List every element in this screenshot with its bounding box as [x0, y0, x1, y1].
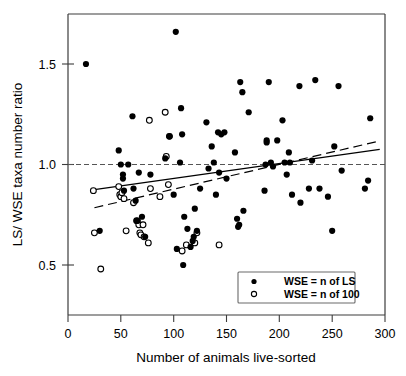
data-point — [236, 222, 242, 228]
data-point — [240, 208, 246, 214]
data-point — [216, 242, 222, 248]
data-point — [216, 169, 222, 175]
data-point — [162, 109, 168, 115]
data-point — [148, 186, 154, 192]
x-tick-label-100: 100 — [163, 327, 184, 341]
data-point — [142, 234, 148, 240]
scatter-plot-svg: 1.5 1.0 0.5 0 50 100 150 200 250 300 Num… — [0, 0, 406, 376]
y-tick-label-0.5: 0.5 — [39, 259, 56, 273]
x-tick-label-0: 0 — [65, 327, 72, 341]
data-point — [125, 161, 131, 167]
data-point — [116, 184, 122, 190]
data-point — [362, 186, 368, 192]
data-point — [287, 159, 293, 165]
data-point — [92, 230, 98, 236]
data-point — [145, 240, 151, 246]
data-point — [120, 175, 126, 181]
data-point — [279, 117, 285, 123]
data-point — [266, 79, 272, 85]
x-tick-label-150: 150 — [216, 327, 237, 341]
data-point — [139, 214, 145, 220]
data-point — [306, 186, 312, 192]
data-point — [90, 188, 96, 194]
data-point — [284, 171, 290, 177]
data-point — [116, 147, 122, 153]
y-tick-label-1.5: 1.5 — [39, 58, 56, 72]
data-point — [181, 214, 187, 220]
data-point — [177, 159, 183, 165]
data-point — [312, 77, 318, 83]
data-point — [83, 61, 89, 67]
data-point — [174, 246, 180, 252]
legend-marker-filled-circle-icon — [251, 279, 256, 284]
data-point — [246, 109, 252, 115]
data-point — [179, 131, 185, 137]
data-point — [339, 167, 345, 173]
data-point — [162, 155, 168, 161]
data-point — [209, 143, 215, 149]
data-point — [237, 79, 243, 85]
data-point — [297, 200, 303, 206]
y-axis-title: LS/ WSE taxa number ratio — [10, 83, 25, 247]
data-point — [325, 194, 331, 200]
data-point — [166, 133, 172, 139]
data-point — [187, 244, 193, 250]
data-point — [197, 186, 203, 192]
data-point — [316, 186, 322, 192]
data-point — [367, 115, 373, 121]
data-point — [329, 228, 335, 234]
data-point — [147, 171, 153, 177]
data-point — [178, 105, 184, 111]
data-point — [234, 216, 240, 222]
data-point — [365, 177, 371, 183]
data-point — [194, 228, 200, 234]
data-point — [331, 143, 337, 149]
x-axis-title: Number of animals live-sorted — [136, 350, 315, 365]
data-point — [97, 228, 103, 234]
data-point — [232, 149, 238, 155]
x-tick-label-50: 50 — [114, 327, 128, 341]
data-point — [296, 83, 302, 89]
data-point — [130, 186, 136, 192]
data-point — [263, 161, 269, 167]
figure-container: 1.5 1.0 0.5 0 50 100 150 200 250 300 Num… — [0, 0, 406, 376]
data-point — [289, 192, 295, 198]
data-point — [180, 262, 186, 268]
data-point — [309, 157, 315, 163]
data-point — [173, 29, 179, 35]
data-point — [133, 198, 139, 204]
data-point — [165, 182, 171, 188]
data-point — [171, 192, 177, 198]
data-point — [264, 139, 270, 145]
data-point — [118, 161, 124, 167]
data-point — [157, 194, 163, 200]
data-point — [121, 188, 127, 194]
x-tick-label-250: 250 — [322, 327, 343, 341]
data-point — [129, 113, 135, 119]
data-point — [203, 119, 209, 125]
data-point — [98, 266, 104, 272]
legend[interactable]: WSE = n of LS WSE = n of 100 — [238, 272, 360, 303]
data-point — [191, 234, 197, 240]
data-point — [223, 175, 229, 181]
data-point — [205, 165, 211, 171]
data-point — [179, 248, 185, 254]
data-point — [123, 228, 129, 234]
data-point — [121, 196, 127, 202]
legend-label-wse-n-of-100: WSE = n of 100 — [284, 288, 360, 300]
data-point — [184, 226, 190, 232]
data-point — [261, 188, 267, 194]
data-point — [140, 222, 146, 228]
legend-label-wse-n-of-ls: WSE = n of LS — [284, 275, 355, 287]
data-point — [146, 117, 152, 123]
x-tick-label-200: 200 — [269, 327, 290, 341]
data-point — [221, 129, 227, 135]
legend-marker-open-circle-icon — [251, 291, 256, 296]
data-point — [136, 169, 142, 175]
data-point — [192, 206, 198, 212]
x-tick-label-300: 300 — [375, 327, 396, 341]
data-point — [211, 159, 217, 165]
data-point — [239, 89, 245, 95]
data-point — [335, 83, 341, 89]
data-point — [274, 137, 280, 143]
